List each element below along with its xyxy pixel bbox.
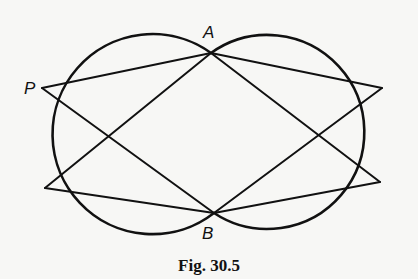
figure-caption: Fig. 30.5: [0, 256, 418, 276]
segment-L2-B: [45, 188, 214, 213]
segment-P-B: [42, 88, 214, 213]
left-circle-arc: [53, 34, 214, 234]
segment-L2-A: [45, 53, 211, 188]
label-A: A: [203, 24, 214, 41]
figure: A P B Fig. 30.5: [0, 0, 418, 279]
label-P: P: [24, 80, 35, 97]
segment-R1-B: [214, 88, 382, 213]
segment-R1-A: [211, 53, 382, 88]
segment-R2-A: [211, 53, 380, 182]
segment-P-A: [42, 53, 211, 88]
label-B: B: [202, 225, 213, 242]
segment-R2-B: [214, 182, 380, 213]
